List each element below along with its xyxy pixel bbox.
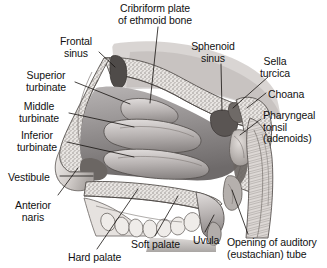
label-middle-turbinate-line2: turbinate <box>19 113 59 125</box>
label-frontal-sinus-line1: Frontal <box>60 36 92 48</box>
label-sphenoid-sinus: Sphenoidsinus <box>191 41 235 64</box>
eustachian-tube-opening <box>223 176 242 211</box>
label-soft-palate: Soft palate <box>131 239 180 251</box>
label-cribriform-plate-line2: of ethmoid bone <box>118 15 192 27</box>
label-auditory-tube: Opening of auditory(eustachian) tube <box>227 237 317 260</box>
label-soft-palate-line1: Soft palate <box>131 239 180 251</box>
label-frontal-sinus: Frontalsinus <box>60 36 92 59</box>
label-uvula: Uvula <box>193 235 219 247</box>
label-inferior-turbinate-line2: turbinate <box>17 142 57 154</box>
label-superior-turbinate: Superiorturbinate <box>26 70 66 93</box>
label-frontal-sinus-line2: sinus <box>60 48 92 60</box>
label-anterior-naris-line1: Anterior <box>15 200 51 212</box>
label-vestibule-line1: Vestibule <box>8 172 50 184</box>
label-sella-turcica: Sellaturcica <box>260 56 290 79</box>
label-uvula-line1: Uvula <box>193 235 219 247</box>
label-auditory-tube-line2: (eustachian) tube <box>227 249 317 261</box>
label-choana-line1: Choana <box>268 89 304 101</box>
label-sphenoid-sinus-line2: sinus <box>191 53 235 65</box>
label-inferior-turbinate-line1: Inferior <box>17 130 57 142</box>
label-superior-turbinate-line1: Superior <box>26 70 66 82</box>
label-pharyngeal-tonsil-line3: (adenoids) <box>263 133 315 145</box>
label-superior-turbinate-line2: turbinate <box>26 82 66 94</box>
label-cribriform-plate: Cribriform plateof ethmoid bone <box>118 3 192 26</box>
label-auditory-tube-line1: Opening of auditory <box>227 237 317 249</box>
label-inferior-turbinate: Inferiorturbinate <box>17 130 57 153</box>
label-anterior-naris-line2: naris <box>15 212 51 224</box>
label-sella-turcica-line2: turcica <box>260 68 290 80</box>
label-middle-turbinate-line1: Middle <box>19 101 59 113</box>
label-sphenoid-sinus-line1: Sphenoid <box>191 41 235 53</box>
label-hard-palate-line1: Hard palate <box>68 252 121 264</box>
label-vestibule: Vestibule <box>8 172 50 184</box>
label-cribriform-plate-line1: Cribriform plate <box>118 3 192 15</box>
label-middle-turbinate: Middleturbinate <box>19 101 59 124</box>
label-pharyngeal-tonsil: Pharyngealtonsil(adenoids) <box>263 110 315 145</box>
label-pharyngeal-tonsil-line1: Pharyngeal <box>263 110 315 122</box>
label-anterior-naris: Anteriornaris <box>15 200 51 223</box>
label-sella-turcica-line1: Sella <box>260 56 290 68</box>
anatomy-figure: Cribriform plateof ethmoid boneFrontalsi… <box>0 0 327 268</box>
label-choana: Choana <box>268 89 304 101</box>
label-hard-palate: Hard palate <box>68 252 121 264</box>
